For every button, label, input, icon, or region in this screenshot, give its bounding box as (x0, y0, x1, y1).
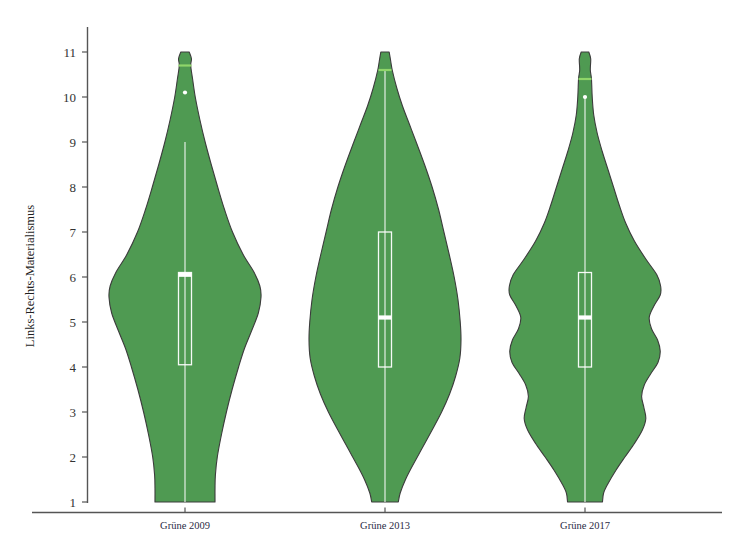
y-tick-label: 3 (70, 405, 77, 420)
violin-group (109, 52, 661, 502)
x-tick-label-2: Grüne 2013 (360, 520, 410, 531)
outlier-point[interactable] (183, 90, 187, 94)
y-tick-label: 11 (63, 45, 76, 60)
outlier-point[interactable] (583, 95, 587, 99)
y-axis-title: Links-Rechts-Materialismus (23, 205, 37, 347)
y-tick-label: 1 (70, 495, 77, 510)
violin-plot-figure: Links-Rechts-Materialismus 1234567891011… (0, 0, 730, 560)
y-tick-label: 8 (70, 180, 77, 195)
plot-canvas: Links-Rechts-Materialismus 1234567891011… (0, 0, 730, 560)
x-tick-label-3: Grüne 2017 (560, 520, 610, 531)
y-tick-label: 10 (63, 90, 76, 105)
x-tick-label-1: Grüne 2009 (160, 520, 210, 531)
y-tick-label: 9 (70, 135, 77, 150)
y-tick-label: 4 (70, 360, 77, 375)
y-tick-label: 7 (70, 225, 77, 240)
y-tick-label: 2 (70, 450, 77, 465)
y-tick-label: 6 (70, 270, 77, 285)
y-tick-label: 5 (70, 315, 77, 330)
